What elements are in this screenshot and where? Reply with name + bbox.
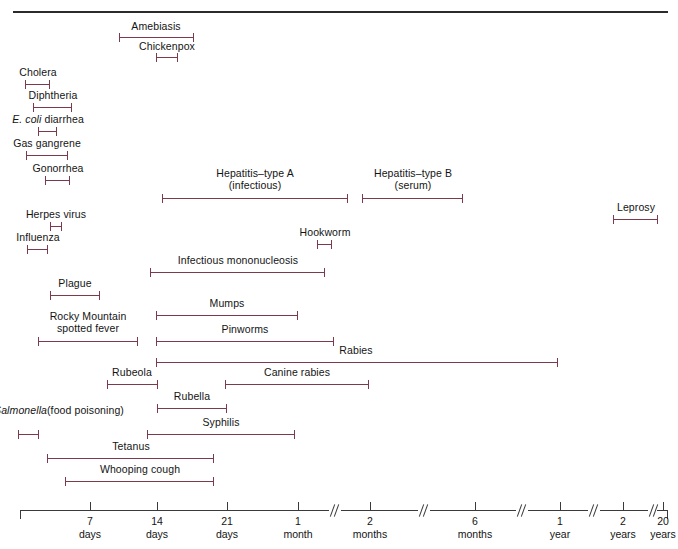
range-bar-line	[26, 155, 68, 156]
axis-tick-value: 2	[353, 515, 387, 528]
range-bar-cap-right	[657, 215, 658, 224]
range-bar	[47, 454, 214, 463]
range-bar-line	[25, 84, 50, 85]
range-bar-cap-right	[368, 380, 369, 389]
axis-tick-value: 21	[216, 515, 238, 528]
range-bar-cap-left	[150, 268, 151, 277]
axis-tick	[298, 502, 299, 510]
disease-label-italic: E. coli	[12, 113, 41, 125]
disease-label: Mumps	[210, 297, 245, 309]
disease-label-line1: Hookworm	[300, 226, 351, 238]
axis-segment	[430, 510, 516, 511]
disease-label: Chickenpox	[139, 40, 195, 52]
range-bar-cap-right	[213, 477, 214, 486]
range-bar-cap-left	[317, 240, 318, 249]
range-bar	[50, 291, 100, 300]
disease-label: Herpes virus	[26, 208, 86, 220]
range-bar-cap-left	[156, 53, 157, 62]
disease-label: E. coli diarrhea	[12, 113, 84, 125]
range-bar-cap-right	[71, 103, 72, 112]
disease-label-line1: Rabies	[339, 344, 372, 356]
top-divider-rule	[13, 11, 668, 13]
axis-tick-value: 2	[610, 515, 636, 528]
axis-tick	[560, 502, 561, 510]
axis-tick-value: 20	[650, 515, 676, 528]
range-bar	[156, 311, 298, 320]
axis-tick-label: 14days	[146, 515, 168, 540]
disease-label: Diphtheria	[29, 89, 78, 101]
range-bar-line	[613, 219, 658, 220]
axis-tick	[663, 502, 664, 510]
range-bar-cap-right	[61, 222, 62, 231]
range-bar	[317, 240, 332, 249]
range-bar-line	[38, 341, 138, 342]
disease-label-line1: Rubeola	[112, 366, 152, 378]
range-bar-cap-left	[50, 291, 51, 300]
range-bar-line	[157, 408, 227, 409]
range-bar-cap-right	[331, 240, 332, 249]
axis-tick-unit: days	[216, 528, 238, 541]
axis-tick-label: 2years	[610, 515, 636, 540]
range-bar-cap-right	[347, 194, 348, 203]
axis-tick-label: 1year	[550, 515, 570, 540]
disease-label: Canine rabies	[264, 366, 330, 378]
disease-label: Hepatitis–type A(infectious)	[216, 168, 293, 191]
range-bar-line	[18, 434, 39, 435]
disease-label: Whooping cough	[100, 463, 180, 475]
range-bar	[45, 176, 70, 185]
axis-tick-unit: months	[458, 528, 492, 541]
disease-label: Rubeola	[112, 366, 152, 378]
range-bar-cap-left	[157, 404, 158, 413]
range-bar-cap-right	[226, 404, 227, 413]
range-bar-cap-left	[65, 477, 66, 486]
disease-label-line1: Rubella	[174, 390, 210, 402]
range-bar	[107, 380, 158, 389]
range-bar-cap-left	[33, 103, 34, 112]
axis-segment	[341, 510, 418, 511]
range-bar-cap-left	[47, 454, 48, 463]
disease-label-line1: Hepatitis–type B	[374, 168, 452, 180]
disease-label: Infectious mononucleosis	[178, 254, 298, 266]
axis-tick-label: 1month	[283, 515, 312, 540]
range-bar-cap-left	[156, 311, 157, 320]
disease-label: Syphilis	[203, 416, 240, 428]
range-bar	[65, 477, 214, 486]
axis-tick-label: 6months	[458, 515, 492, 540]
disease-label-line1: Gas gangrene	[13, 137, 81, 149]
range-bar-cap-left	[38, 127, 39, 136]
disease-label-line1: Cholera	[19, 66, 56, 78]
range-bar-cap-right	[333, 337, 334, 346]
range-bar-cap-right	[213, 454, 214, 463]
range-bar	[38, 337, 138, 346]
axis-tick	[370, 502, 371, 510]
disease-label: Hepatitis–type B(serum)	[374, 168, 452, 191]
range-bar-cap-right	[324, 268, 325, 277]
disease-label: Leprosy	[617, 201, 655, 213]
range-bar-cap-left	[18, 430, 19, 439]
range-bar-line	[225, 384, 369, 385]
range-bar-cap-right	[137, 337, 138, 346]
axis-segment	[20, 510, 329, 511]
disease-label-line1: Rocky Mountain	[50, 311, 127, 323]
range-bar-cap-left	[25, 80, 26, 89]
range-bar	[156, 337, 334, 346]
range-bar-line	[162, 198, 348, 199]
range-bar-cap-right	[557, 358, 558, 367]
axis-tick	[475, 502, 476, 510]
axis-tick	[623, 502, 624, 510]
range-bar-line	[150, 272, 325, 273]
range-bar-cap-right	[297, 311, 298, 320]
disease-label-line1: Diphtheria	[29, 89, 78, 101]
range-bar-cap-left	[45, 176, 46, 185]
disease-label: Cholera	[19, 66, 56, 78]
axis-tick-unit: years	[650, 528, 676, 541]
range-bar-line	[38, 131, 57, 132]
disease-label-line1: Syphilis	[203, 416, 240, 428]
axis-break-mark	[418, 504, 430, 517]
range-bar	[156, 358, 558, 367]
disease-label-line1: Plague	[58, 277, 91, 289]
range-bar-line	[65, 481, 214, 482]
disease-label-line1: Gonorrhea	[32, 162, 83, 174]
range-bar-line	[107, 384, 158, 385]
range-bar-line	[27, 249, 48, 250]
